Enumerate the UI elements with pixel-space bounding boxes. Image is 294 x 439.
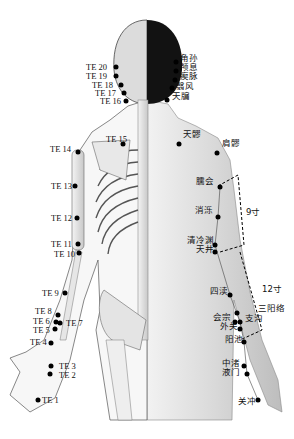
- te-label: TE 16: [100, 97, 121, 106]
- acupoint-dot: [63, 291, 68, 296]
- chinese-point-label: 支沟: [245, 314, 263, 323]
- acupoint-dot: [228, 293, 233, 298]
- acupoint-dot: [36, 398, 41, 403]
- chinese-point-label: 肩髎: [222, 139, 240, 148]
- chinese-point-label: 瘈脉: [180, 72, 198, 81]
- acupoint-dot: [174, 60, 179, 65]
- te-label: TE 13: [51, 182, 72, 191]
- chinese-point-label: 天牖: [172, 92, 190, 101]
- chinese-point-label: 翳风: [176, 82, 194, 91]
- chinese-point-label: 液门: [222, 368, 240, 377]
- te-label: TE 10: [54, 250, 75, 259]
- te-label: TE 7: [66, 319, 83, 328]
- acupoint-dot: [75, 216, 80, 221]
- acupoint-dot: [215, 151, 220, 156]
- chinese-point-label: 关冲: [238, 397, 256, 406]
- acupoint-dot: [256, 398, 261, 403]
- chinese-point-label: 天髎: [183, 130, 201, 139]
- acupoint-dot: [242, 364, 247, 369]
- acupoint-dot: [114, 74, 119, 79]
- te-label: TE 14: [50, 145, 71, 154]
- chinese-point-label: 外关: [220, 322, 238, 331]
- body-illustration: [0, 0, 294, 439]
- acupoint-dot: [235, 311, 240, 316]
- te-label: TE 8: [35, 307, 52, 316]
- acupoint-dot: [242, 340, 247, 345]
- te-label: TE 5: [33, 326, 50, 335]
- measurement-label-12cun: 12寸: [262, 285, 282, 294]
- chinese-point-label: 三阳络: [258, 304, 285, 313]
- acupoint-dot: [53, 327, 58, 332]
- acupoint-dot: [119, 83, 124, 88]
- acupoint-dot: [76, 242, 81, 247]
- measurement-label-9cun: 9寸: [246, 208, 260, 217]
- chinese-point-label: 消泺: [195, 206, 213, 215]
- acupoint-dot: [177, 142, 182, 147]
- acupoint-dot: [218, 185, 223, 190]
- acupoint-dot: [114, 65, 119, 70]
- acupoint-dot: [73, 184, 78, 189]
- te-label: TE 4: [30, 338, 47, 347]
- te-label: TE 11: [51, 240, 72, 249]
- acupoint-dot: [48, 372, 53, 377]
- te-label: TE 1: [42, 396, 59, 405]
- acupoint-dot: [238, 327, 243, 332]
- acupoint-dot: [77, 251, 82, 256]
- acupoint-diagram: 9寸 12寸 TE 20TE 19TE 18TE 17TE 16TE 15TE …: [0, 0, 294, 439]
- chinese-point-label: 四渎: [210, 287, 228, 296]
- acupoint-dot: [165, 98, 170, 103]
- te-label: TE 2: [59, 371, 76, 380]
- acupoint-dot: [76, 150, 81, 155]
- acupoint-dot: [49, 341, 54, 346]
- acupoint-dot: [216, 215, 221, 220]
- acupoint-dot: [121, 142, 126, 147]
- acupoint-dot: [58, 321, 63, 326]
- acupoint-dot: [245, 372, 250, 377]
- head-left: [114, 20, 147, 104]
- acupoint-dot: [174, 69, 179, 74]
- skin-half: [147, 100, 282, 420]
- acupoint-dot: [56, 313, 61, 318]
- acupoint-dot: [238, 320, 243, 325]
- acupoint-dot: [213, 250, 218, 255]
- acupoint-dot: [170, 86, 175, 91]
- acupoint-dot: [49, 364, 54, 369]
- acupoint-dot: [122, 91, 127, 96]
- acupoint-dot: [124, 99, 129, 104]
- te-label: TE 9: [42, 289, 59, 298]
- chinese-point-label: 天井: [196, 245, 214, 254]
- te-label: TE 12: [51, 214, 72, 223]
- chinese-point-label: 阳池: [225, 335, 243, 344]
- chinese-point-label: 臑会: [196, 177, 214, 186]
